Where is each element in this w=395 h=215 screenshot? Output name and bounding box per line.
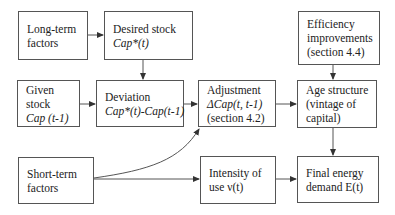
node-label: stock: [26, 97, 79, 111]
node-label: factors: [27, 181, 93, 195]
node-formula: ΔCap(t, t-1): [207, 97, 275, 111]
node-label: Age structure: [306, 83, 376, 97]
node-efficiency-improvements: Efficiency improvements (section 4.4): [298, 11, 380, 65]
node-label: (section 4.4): [307, 45, 379, 59]
node-label: use ν(t): [209, 180, 275, 194]
node-label: Deviation: [105, 90, 183, 104]
node-given-stock: Given stock Cap (t-1): [17, 80, 80, 127]
node-label: Intensity of: [209, 166, 275, 180]
node-label: Given: [26, 83, 79, 97]
node-label: Adjustment: [207, 83, 275, 97]
node-label: Efficiency: [307, 17, 379, 31]
node-label: Final energy: [306, 166, 378, 180]
node-label: Short-term: [27, 167, 93, 181]
node-adjustment: Adjustment ΔCap(t, t-1) (section 4.2): [198, 80, 276, 127]
node-formula: Cap (t-1): [26, 111, 79, 125]
node-short-term-factors: Short-term factors: [18, 157, 94, 204]
node-label: improvements: [307, 31, 379, 45]
node-label: (section 4.2): [207, 111, 275, 125]
node-label: Long-term: [27, 22, 87, 36]
edge-shortterm-adjustment: [94, 129, 199, 178]
node-label: demand E(t): [306, 180, 378, 194]
node-final-energy-demand: Final energy demand E(t): [297, 156, 379, 203]
node-formula: Cap*(t): [113, 36, 192, 50]
node-label: factors: [27, 36, 87, 50]
node-label: (vintage of: [306, 97, 376, 111]
node-label: capital): [306, 111, 376, 125]
node-age-structure: Age structure (vintage of capital): [297, 80, 377, 128]
node-label: Desired stock: [113, 22, 192, 36]
node-deviation: Deviation Cap*(t)-Cap(t-1): [96, 80, 184, 127]
node-intensity-of-use: Intensity of use ν(t): [200, 156, 276, 204]
node-long-term-factors: Long-term factors: [18, 11, 88, 60]
node-desired-stock: Desired stock Cap*(t): [104, 11, 193, 60]
node-formula: Cap*(t)-Cap(t-1): [105, 104, 183, 118]
